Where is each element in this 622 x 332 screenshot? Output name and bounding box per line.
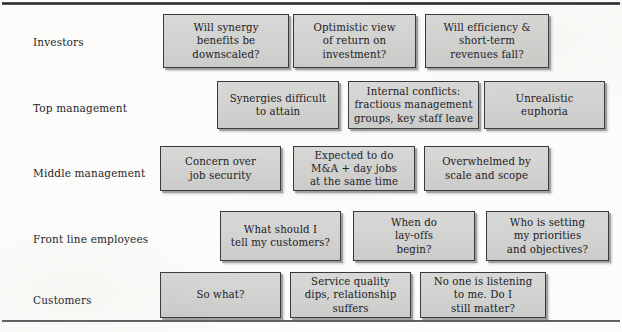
row-label-customers: Customers — [33, 295, 92, 306]
concern-text: Service quality dips, relationship suffe… — [302, 275, 400, 315]
concern-text: Unrealistic euphoria — [512, 92, 576, 118]
concern-box: Unrealistic euphoria — [484, 81, 605, 129]
bottom-rule — [2, 320, 620, 322]
concern-text: Synergies difficult to attain — [227, 92, 330, 118]
concern-box: Expected to do M&A + day jobs at the sam… — [293, 146, 415, 191]
concern-box: Synergies difficult to attain — [217, 81, 339, 129]
concern-box: Concern over job security — [160, 146, 281, 191]
concern-box: When do lay-offs begin? — [353, 211, 475, 261]
concern-box: Who is setting my priorities and objecti… — [486, 211, 609, 261]
concern-box: Overwhelmed by scale and scope — [424, 146, 549, 191]
concern-box: So what? — [160, 272, 281, 318]
row-label-investors: Investors — [33, 37, 84, 48]
concern-box: Will synergy benefits be downscaled? — [163, 14, 289, 68]
concern-text: Concern over job security — [182, 155, 259, 181]
concern-text: Will efficiency & short-term revenues fa… — [440, 21, 533, 61]
top-rule — [2, 2, 620, 5]
concern-box: What should I tell my customers? — [220, 211, 341, 261]
concern-text: No one is listening to me. Do I still ma… — [431, 275, 536, 315]
concern-box: Internal conflicts: fractious management… — [348, 81, 479, 129]
concern-box: Service quality dips, relationship suffe… — [290, 272, 411, 318]
concern-text: What should I tell my customers? — [228, 223, 333, 249]
row-label-front-line-employees: Front line employees — [33, 234, 148, 245]
concern-text: Overwhelmed by scale and scope — [439, 155, 534, 181]
concern-text: Expected to do M&A + day jobs at the sam… — [307, 149, 401, 189]
concern-text: Will synergy benefits be downscaled? — [189, 21, 262, 61]
row-label-middle-management: Middle management — [33, 168, 145, 179]
concern-box: Optimistic view of return on investment? — [293, 14, 416, 68]
concern-text: Who is setting my priorities and objecti… — [504, 216, 591, 256]
concern-box: No one is listening to me. Do I still ma… — [420, 272, 546, 318]
row-label-top-management: Top management — [33, 103, 127, 114]
concern-text: So what? — [193, 288, 247, 301]
concern-text: Optimistic view of return on investment? — [311, 21, 399, 61]
concern-box: Will efficiency & short-term revenues fa… — [425, 14, 549, 68]
concern-text: When do lay-offs begin? — [388, 216, 440, 256]
concern-text: Internal conflicts: fractious management… — [351, 85, 476, 125]
stakeholder-concerns-figure: Investors Will synergy benefits be downs… — [0, 0, 622, 332]
